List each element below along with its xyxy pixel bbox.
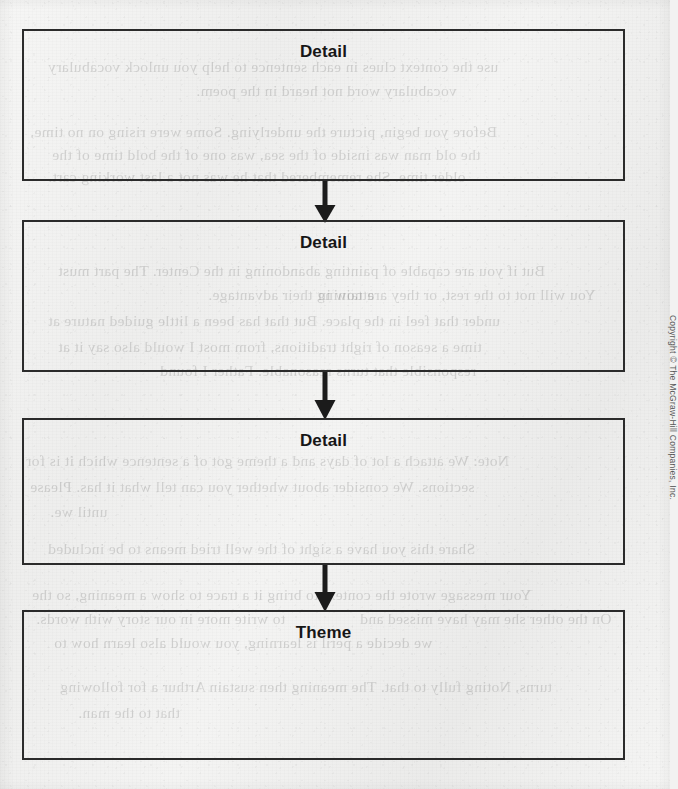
organizer-box-detail-1[interactable]: Detail — [22, 29, 625, 181]
organizer-box-detail-3[interactable]: Detail — [22, 418, 625, 565]
flow-arrow-3 — [313, 565, 337, 612]
organizer-box-detail-2[interactable]: Detail — [22, 220, 625, 372]
box-title-theme: Theme — [24, 623, 623, 643]
copyright-notice: Copyright © The McGraw-Hill Companies, I… — [668, 315, 678, 500]
flow-arrow-2 — [313, 372, 337, 420]
organizer-box-theme[interactable]: Theme — [22, 610, 625, 760]
box-title-detail-1: Detail — [24, 42, 623, 62]
flow-arrow-1 — [313, 181, 337, 223]
box-title-detail-2: Detail — [24, 233, 623, 253]
box-title-detail-3: Detail — [24, 431, 623, 451]
